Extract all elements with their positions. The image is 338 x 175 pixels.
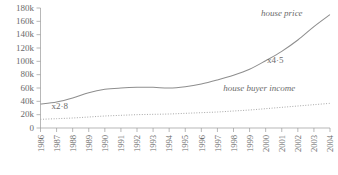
x-axis: 1986198719881989199019911992199319941995…	[36, 128, 336, 152]
x-tick-label: 1989	[84, 135, 94, 152]
x-tick-label: 1995	[180, 135, 190, 152]
y-tick-label: 60k	[21, 83, 35, 93]
x-tick-label: 1990	[100, 135, 110, 152]
x-tick-label: 1998	[229, 135, 239, 152]
x-tick-label: 1987	[52, 135, 62, 152]
x-tick-label: 2001	[277, 135, 287, 152]
x-tick-label: 1991	[116, 135, 126, 152]
x-tick-label: 1992	[132, 135, 142, 152]
x-tick-label: 1996	[197, 135, 207, 152]
y-tick-label: 80k	[21, 69, 35, 79]
x-tick-label: 1999	[245, 135, 255, 152]
y-tick-label: 40k	[21, 96, 35, 106]
growth-multiplier-income: x2·8	[52, 101, 69, 111]
x-tick-label: 1994	[164, 134, 174, 152]
series-line-house-buyer-income	[41, 103, 331, 119]
x-tick-label: 1993	[148, 135, 158, 152]
house-price-income-chart: 020k40k60k80k100k120k140k160k180k 198619…	[0, 0, 338, 175]
x-tick-label: 2002	[293, 135, 303, 152]
y-tick-label: 140k	[16, 29, 35, 39]
x-tick-label: 2003	[309, 135, 319, 152]
y-tick-label: 160k	[16, 16, 35, 26]
y-tick-label: 180k	[16, 3, 35, 13]
x-tick-label: 1986	[36, 135, 46, 152]
chart-canvas: 020k40k60k80k100k120k140k160k180k 198619…	[0, 0, 338, 175]
x-tick-label: 1988	[68, 135, 78, 152]
series-labels-group: house pricehouse buyer income	[223, 8, 302, 93]
y-tick-label: 120k	[16, 43, 35, 53]
series-label-house-buyer-income: house buyer income	[223, 83, 295, 93]
y-tick-label: 100k	[16, 56, 35, 66]
y-axis: 020k40k60k80k100k120k140k160k180k	[16, 3, 41, 133]
y-tick-label: 20k	[21, 109, 35, 119]
x-tick-label: 2000	[261, 135, 271, 152]
x-tick-label: 1997	[213, 135, 223, 152]
x-tick-label: 2004	[325, 134, 335, 152]
data-series-group	[41, 15, 331, 120]
series-label-house-price: house price	[261, 8, 303, 18]
growth-multiplier-price: x4·5	[267, 55, 284, 65]
y-tick-label: 0	[30, 123, 35, 133]
